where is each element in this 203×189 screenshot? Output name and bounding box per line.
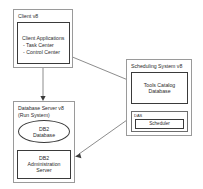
client-group-title: Client v8 xyxy=(18,13,38,19)
scheduler-box: Scheduler xyxy=(135,119,184,129)
db2-database-label-line-2: Database xyxy=(33,132,55,138)
client-applications-item-task-center: - Task Center xyxy=(23,42,54,49)
edge-das-to-db2-admin-server xyxy=(75,120,127,158)
tools-catalog-label-line-2: Database xyxy=(148,88,170,94)
client-applications-box: Client Applications - Task Center - Cont… xyxy=(17,22,70,64)
database-server-group-title-line-2: (Run System) xyxy=(18,112,50,118)
db2-database-label-line-1: DB2 xyxy=(39,125,49,131)
scheduling-system-group-title: Scheduling System v8 xyxy=(131,63,182,69)
edge-client-to-tools-catalog xyxy=(70,56,132,83)
db2-administration-server-box: DB2 Administration Server xyxy=(17,150,71,179)
edge-client-to-database-server xyxy=(40,68,45,101)
db2-admin-label-line-1: DB2 xyxy=(39,155,49,161)
client-applications-item-control-center: - Control Center xyxy=(23,49,60,56)
db2-admin-label-line-3: Server xyxy=(36,168,51,174)
architecture-diagram: Client v8 Client Applications - Task Cen… xyxy=(0,0,203,189)
db2-database-label: DB2 Database xyxy=(19,125,69,138)
db2-admin-label-line-2: Administration xyxy=(28,161,61,167)
database-server-group-title-line-1: Database Server v8 xyxy=(18,105,64,111)
tools-catalog-database-box: Tools Catalog Database xyxy=(131,72,188,104)
tools-catalog-database-label: Tools Catalog Database xyxy=(132,82,187,95)
db2-administration-server-label: DB2 Administration Server xyxy=(18,155,70,174)
das-label: DAS xyxy=(134,114,142,119)
db2-database-node: DB2 Database xyxy=(18,120,70,143)
scheduler-label: Scheduler xyxy=(136,121,183,126)
client-applications-heading: Client Applications xyxy=(22,35,64,42)
tools-catalog-label-line-1: Tools Catalog xyxy=(144,82,175,88)
